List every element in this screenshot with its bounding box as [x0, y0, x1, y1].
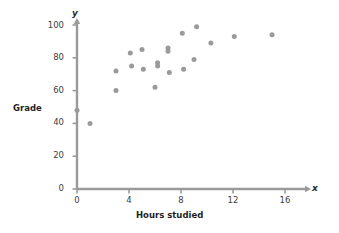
x-axis-arrowhead [305, 186, 311, 192]
y-tick-label-60: 60 [32, 86, 64, 95]
data-point [114, 88, 119, 93]
data-point [114, 68, 119, 73]
data-point [270, 32, 275, 37]
data-point [181, 67, 186, 72]
data-point [192, 57, 197, 62]
x-tick-label-12: 12 [223, 196, 243, 205]
data-point [129, 64, 134, 69]
data-point [153, 85, 158, 90]
data-point [180, 31, 185, 36]
x-tick-label-16: 16 [275, 196, 295, 205]
y-tick-label-40: 40 [32, 118, 64, 127]
data-point [167, 70, 172, 75]
scatter-plot-figure: 100 80 60 40 20 0 0 4 8 12 16 y x Grade … [0, 0, 339, 233]
data-point [208, 41, 213, 46]
data-point [232, 34, 237, 39]
y-tick-label-0: 0 [32, 184, 64, 193]
data-point [140, 47, 145, 52]
y-axis-arrowhead [74, 18, 80, 24]
x-tick-label-4: 4 [119, 196, 139, 205]
x-tick-label-8: 8 [171, 196, 191, 205]
y-tick-label-20: 20 [32, 151, 64, 160]
y-tick-label-80: 80 [32, 53, 64, 62]
data-point [155, 64, 160, 69]
x-axis-variable-label: x [312, 184, 318, 193]
data-point [88, 121, 93, 126]
y-axis-title: Grade [13, 104, 42, 113]
data-point [166, 49, 171, 54]
x-tick-label-0: 0 [67, 196, 87, 205]
y-axis-variable-label: y [72, 9, 78, 18]
x-axis-title: Hours studied [136, 211, 203, 220]
data-point [128, 50, 133, 55]
data-point [75, 108, 80, 113]
data-point [194, 24, 199, 29]
y-tick-label-100: 100 [32, 21, 64, 30]
data-point [141, 67, 146, 72]
